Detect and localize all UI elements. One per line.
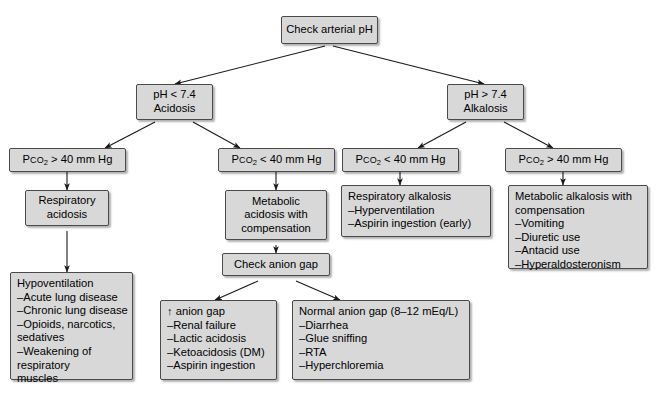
list-item: –Ketoacidosis (DM) (167, 346, 270, 360)
list-item: –Renal failure (167, 319, 270, 333)
node-heading: Hypoventilation (17, 277, 126, 291)
list-item-cont: respiratory (17, 359, 126, 373)
node-pco2-high-left[interactable]: PCO2 > 40 mm Hg (9, 148, 126, 172)
list-item: –Hyperaldosteronism (515, 258, 641, 272)
node-label-line1: pH < 7.4 (153, 88, 196, 102)
node-high-anion-gap[interactable]: ↑ anion gap –Renal failure –Lactic acido… (160, 300, 277, 380)
node-label: PCO2 > 40 mm Hg (519, 153, 609, 168)
node-label-line2: acidosis (47, 208, 87, 222)
node-heading: ↑ anion gap (167, 305, 270, 319)
list-item: –Diarrhea (299, 319, 463, 333)
node-label-line1: Metabolic (252, 195, 300, 209)
list-item: –Vomiting (515, 217, 641, 231)
edge-alkalosis-to-pco2-high (504, 122, 553, 148)
list-item: –Weakening of (17, 345, 126, 359)
node-pco2-low-right[interactable]: PCO2 < 40 mm Hg (342, 148, 459, 172)
node-heading-line1: Metabolic alkalosis with (515, 190, 641, 204)
node-ph-alkalosis[interactable]: pH > 7.4 Alkalosis (447, 84, 524, 120)
node-check-anion-gap[interactable]: Check anion gap (222, 253, 330, 276)
edge-aniongap-to-normal (296, 281, 340, 300)
flowchart-canvas: Check arterial pH pH < 7.4 Acidosis pH >… (0, 0, 658, 401)
list-item: –Glue sniffing (299, 332, 463, 346)
node-ph-acidosis[interactable]: pH < 7.4 Acidosis (136, 84, 213, 120)
node-label: Check arterial pH (286, 23, 372, 37)
edge-aniongap-to-high (215, 281, 258, 300)
list-item: –Lactic acidosis (167, 332, 270, 346)
node-heading: Normal anion gap (8–12 mEq/L) (299, 305, 463, 319)
list-item: –RTA (299, 346, 463, 360)
node-metabolic-alkalosis[interactable]: Metabolic alkalosis with compensation –V… (508, 185, 648, 269)
node-label: PCO2 > 40 mm Hg (23, 153, 113, 168)
node-label: Check anion gap (234, 258, 318, 272)
node-label: PCO2 < 40 mm Hg (356, 153, 446, 168)
list-item: –Aspirin ingestion (early) (348, 217, 484, 231)
node-check-arterial-ph[interactable]: Check arterial pH (281, 16, 378, 44)
node-metabolic-acidosis[interactable]: Metabolic acidosis with compensation (225, 190, 327, 240)
node-normal-anion-gap[interactable]: Normal anion gap (8–12 mEq/L) –Diarrhea … (292, 300, 470, 380)
list-item: –Hyperchloremia (299, 359, 463, 373)
node-respiratory-acidosis[interactable]: Respiratory acidosis (25, 190, 109, 226)
list-item: –Acute lung disease (17, 291, 126, 305)
list-item-cont: muscles (17, 372, 126, 386)
node-label-line1: pH > 7.4 (464, 88, 507, 102)
node-heading-line2: compensation (515, 204, 641, 218)
node-respiratory-alkalosis[interactable]: Respiratory alkalosis –Hyperventilation … (341, 185, 491, 237)
edge-root-to-alkalosis (333, 46, 484, 84)
edge-root-to-acidosis (175, 46, 325, 84)
node-pco2-low-left[interactable]: PCO2 < 40 mm Hg (218, 148, 335, 172)
node-label-line2: Alkalosis (463, 102, 507, 116)
list-item: –Hyperventilation (348, 204, 484, 218)
edge-acidosis-to-pco2-high (105, 122, 155, 148)
list-item: –Chronic lung disease (17, 304, 126, 318)
node-hypoventilation[interactable]: Hypoventilation –Acute lung disease –Chr… (10, 272, 133, 380)
edge-acidosis-to-pco2-low (193, 122, 240, 148)
list-item: –Antacid use (515, 244, 641, 258)
list-item-cont: sedatives (17, 331, 126, 345)
node-label-line2: acidosis with (244, 208, 307, 222)
node-label-line1: Respiratory (38, 194, 95, 208)
list-item: –Opioids, narcotics, (17, 318, 126, 332)
list-item: –Aspirin ingestion (167, 359, 270, 373)
node-heading: Respiratory alkalosis (348, 190, 484, 204)
list-item: –Diuretic use (515, 231, 641, 245)
edge-alkalosis-to-pco2-low (418, 122, 466, 148)
node-label-line3: compensation (241, 222, 311, 236)
node-label-line2: Acidosis (154, 102, 196, 116)
node-pco2-high-right[interactable]: PCO2 > 40 mm Hg (505, 148, 622, 172)
node-label: PCO2 < 40 mm Hg (232, 153, 322, 168)
